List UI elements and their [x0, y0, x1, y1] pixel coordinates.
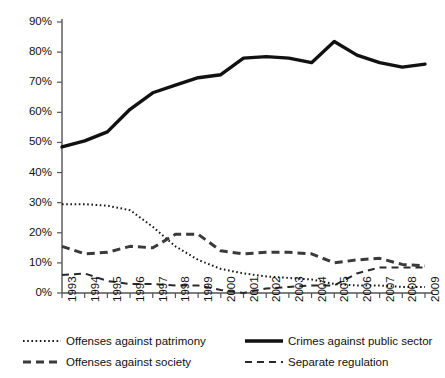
- legend-label: Separate regulation: [288, 356, 388, 368]
- x-axis-tick-label: 2006: [362, 276, 374, 302]
- x-axis-tick-label: 2008: [407, 276, 419, 302]
- y-axis-tick-label: 20%: [14, 227, 52, 239]
- y-axis-tick-label: 40%: [14, 167, 52, 179]
- legend-label: Offenses against society: [66, 356, 191, 368]
- x-axis-tick-label: 1998: [180, 276, 192, 302]
- line-chart: 0%10%20%30%40%50%60%70%80%90% 1993199419…: [0, 0, 445, 378]
- y-axis-tick-label: 90%: [14, 16, 52, 28]
- x-axis-tick-label: 1995: [112, 276, 124, 302]
- legend-swatch-icon: [244, 336, 284, 346]
- x-axis-tick-label: 1999: [203, 276, 215, 302]
- x-axis-tick-label: 1996: [135, 276, 147, 302]
- y-axis-tick-label: 30%: [14, 197, 52, 209]
- x-axis-tick-label: 2007: [385, 276, 397, 302]
- y-axis-tick-label: 50%: [14, 136, 52, 148]
- x-axis-tick-label: 2002: [271, 276, 283, 302]
- y-axis-tick-label: 70%: [14, 76, 52, 88]
- y-axis-tick-label: 0%: [14, 287, 52, 299]
- legend-item: Separate regulation: [244, 355, 388, 368]
- series-line-crimes-against-public-sector: [62, 42, 425, 147]
- chart-canvas: [0, 0, 445, 378]
- x-axis-tick-label: 1994: [90, 276, 102, 302]
- x-axis-tick-label: 2005: [339, 276, 351, 302]
- x-axis-tick-label: 2009: [430, 276, 442, 302]
- legend-label: Offenses against patrimony: [66, 335, 206, 347]
- x-axis-tick-label: 1993: [67, 276, 79, 302]
- y-axis-tick-label: 10%: [14, 257, 52, 269]
- x-axis-tick-label: 2004: [317, 276, 329, 302]
- legend-swatch-icon: [244, 357, 284, 367]
- x-axis-tick-label: 1997: [158, 276, 170, 302]
- legend-swatch-icon: [22, 357, 62, 367]
- chart-series-group: [62, 42, 425, 293]
- legend-item: Offenses against society: [22, 355, 191, 368]
- legend-item: Offenses against patrimony: [22, 334, 206, 347]
- x-axis-tick-label: 2003: [294, 276, 306, 302]
- series-line-offenses-against-society: [62, 234, 425, 266]
- series-line-offenses-against-patrimony: [62, 204, 425, 287]
- x-axis-tick-label: 2000: [226, 276, 238, 302]
- x-axis-tick-label: 2001: [249, 276, 261, 302]
- chart-legend: Offenses against patrimonyCrimes against…: [22, 334, 442, 376]
- y-axis-tick-label: 80%: [14, 46, 52, 58]
- y-axis-tick-label: 60%: [14, 106, 52, 118]
- legend-item: Crimes against public sector: [244, 334, 432, 347]
- legend-swatch-icon: [22, 336, 62, 346]
- legend-label: Crimes against public sector: [288, 335, 432, 347]
